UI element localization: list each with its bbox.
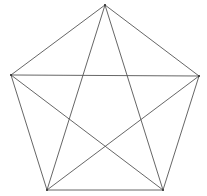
diagonal-CE	[11, 75, 163, 190]
vertex-A	[104, 4, 106, 6]
vertex-C	[162, 189, 164, 191]
diagonal-BD	[47, 76, 199, 190]
diagonal-AC	[105, 5, 163, 190]
edge-AB	[105, 5, 199, 76]
edge-DE	[11, 75, 47, 190]
pentagram-diagonals	[11, 5, 199, 190]
diagonal-AD	[47, 5, 105, 190]
edge-BC	[163, 76, 199, 190]
vertex-B	[198, 75, 200, 77]
vertex-E	[10, 74, 12, 76]
pentagon-diagram	[0, 0, 207, 196]
diagonal-BE	[11, 75, 199, 76]
edge-EA	[11, 5, 105, 75]
vertex-D	[46, 189, 48, 191]
